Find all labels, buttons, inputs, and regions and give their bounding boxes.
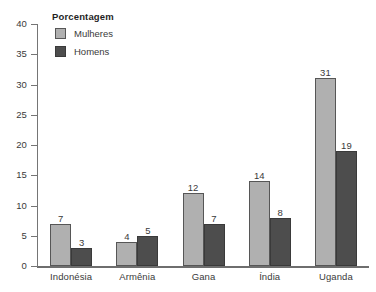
y-axis-tick	[31, 85, 38, 86]
bar-group: 127	[183, 24, 225, 266]
bar-group: 45	[116, 24, 158, 266]
bar-homens[interactable]: 7	[204, 224, 225, 266]
bar-value-label: 7	[58, 213, 63, 224]
y-axis-tick-label: 0	[0, 261, 27, 271]
bar-group: 3119	[315, 24, 357, 266]
legend-title: Porcentagem	[52, 11, 114, 22]
bar-value-label: 19	[341, 140, 352, 151]
y-axis-tick	[31, 206, 38, 207]
category-label: Gana	[170, 271, 236, 283]
bar-homens[interactable]: 3	[71, 248, 92, 266]
legend-item-label: Mulheres	[74, 28, 113, 39]
y-axis-tick-label: 20	[0, 140, 27, 150]
bar-mulheres[interactable]: 12	[183, 193, 204, 266]
y-axis-tick	[31, 266, 38, 267]
bar-value-label: 14	[254, 170, 265, 181]
bar-chart: 0510152025303540 73451271483119 Indonési…	[0, 0, 376, 292]
y-axis-tick-label: 35	[0, 49, 27, 59]
category-label: Armênia	[104, 271, 170, 283]
y-axis-tick-label: 25	[0, 110, 27, 120]
bar-mulheres[interactable]: 14	[249, 181, 270, 266]
y-axis-tick-label: 5	[0, 231, 27, 241]
legend-swatch-icon	[55, 28, 66, 39]
y-axis-tick	[31, 115, 38, 116]
y-axis-tick	[31, 175, 38, 176]
bar-value-label: 7	[211, 213, 216, 224]
bar-value-label: 8	[278, 207, 283, 218]
y-axis-tick-label: 40	[0, 19, 27, 29]
legend-item-homens[interactable]: Homens	[55, 46, 114, 57]
category-label: Uganda	[303, 271, 369, 283]
legend-entries: MulheresHomens	[52, 28, 114, 57]
y-axis-tick	[31, 236, 38, 237]
bar-mulheres[interactable]: 4	[116, 242, 137, 266]
y-axis-tick	[31, 24, 38, 25]
y-axis-tick-label: 15	[0, 170, 27, 180]
bar-group: 148	[249, 24, 291, 266]
legend-item-mulheres[interactable]: Mulheres	[55, 28, 114, 39]
bar-mulheres[interactable]: 7	[50, 224, 71, 266]
legend-item-label: Homens	[74, 46, 109, 57]
chart-legend: Porcentagem MulheresHomens	[52, 11, 114, 64]
bar-homens[interactable]: 8	[270, 218, 291, 266]
bar-homens[interactable]: 19	[336, 151, 357, 266]
y-axis-tick	[31, 54, 38, 55]
bar-value-label: 4	[124, 231, 129, 242]
bar-homens[interactable]: 5	[137, 236, 158, 266]
bar-value-label: 12	[188, 182, 199, 193]
category-label: Índia	[237, 271, 303, 283]
bar-value-label: 3	[79, 237, 84, 248]
y-axis-tick-label: 10	[0, 201, 27, 211]
x-axis-line	[37, 266, 369, 268]
bar-mulheres[interactable]: 31	[315, 78, 336, 266]
bar-value-label: 31	[320, 67, 331, 78]
y-axis-tick-label: 30	[0, 80, 27, 90]
bar-value-label: 5	[145, 225, 150, 236]
legend-swatch-icon	[55, 46, 66, 57]
y-axis-tick	[31, 145, 38, 146]
category-label: Indonésia	[38, 271, 104, 283]
